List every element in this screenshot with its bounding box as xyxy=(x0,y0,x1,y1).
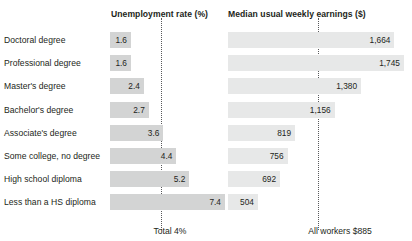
bar-value-median-weekly-earnings: 1,664 xyxy=(370,35,395,45)
column-header-unemployment-rate: Unemployment rate (%) xyxy=(111,9,208,19)
row-label: Master's degree xyxy=(4,81,66,91)
row-label: Less than a HS diploma xyxy=(4,197,96,207)
bar-value-median-weekly-earnings: 1,156 xyxy=(310,105,335,115)
bar-unemployment-rate: 1.6 xyxy=(110,55,131,71)
footer-total-unemployment: Total 4% xyxy=(154,226,187,236)
bar-median-weekly-earnings: 1,380 xyxy=(228,78,361,94)
bar-unemployment-rate: 5.2 xyxy=(110,171,189,187)
bar-value-unemployment-rate: 2.7 xyxy=(133,105,149,115)
bar-value-unemployment-rate: 1.6 xyxy=(115,58,131,68)
row-label: High school diploma xyxy=(4,174,82,184)
bar-value-unemployment-rate: 5.2 xyxy=(174,174,190,184)
bar-unemployment-rate: 2.4 xyxy=(110,78,144,94)
chart-row: Some college, no degree4.4756 xyxy=(0,148,412,164)
education-unemployment-earnings-chart: Unemployment rate (%) Median usual weekl… xyxy=(0,0,412,241)
bar-value-median-weekly-earnings: 1,380 xyxy=(336,81,361,91)
chart-row: Less than a HS diploma7.4504 xyxy=(0,194,412,210)
bar-value-median-weekly-earnings: 1,745 xyxy=(379,58,404,68)
row-label: Bachelor's degree xyxy=(4,105,73,115)
bar-value-unemployment-rate: 1.6 xyxy=(115,35,131,45)
bar-value-unemployment-rate: 4.4 xyxy=(161,151,177,161)
bar-value-median-weekly-earnings: 692 xyxy=(262,174,280,184)
row-label: Some college, no degree xyxy=(4,151,100,161)
bar-value-median-weekly-earnings: 756 xyxy=(270,151,288,161)
footer-total-earnings: All workers $885 xyxy=(308,226,372,236)
bar-median-weekly-earnings: 692 xyxy=(228,171,280,187)
bar-unemployment-rate: 7.4 xyxy=(110,194,225,210)
chart-row: Doctoral degree1.61,664 xyxy=(0,32,412,48)
chart-row: Associate's degree3.6819 xyxy=(0,125,412,141)
bar-median-weekly-earnings: 1,664 xyxy=(228,32,394,48)
row-label: Associate's degree xyxy=(4,128,77,138)
chart-row: Professional degree1.61,745 xyxy=(0,55,412,71)
row-label: Professional degree xyxy=(4,58,81,68)
bar-unemployment-rate: 1.6 xyxy=(110,32,131,48)
chart-row: High school diploma5.2692 xyxy=(0,171,412,187)
bar-value-unemployment-rate: 2.4 xyxy=(128,81,144,91)
bar-value-unemployment-rate: 3.6 xyxy=(148,128,164,138)
row-label: Doctoral degree xyxy=(4,35,65,45)
bar-unemployment-rate: 4.4 xyxy=(110,148,176,164)
bar-median-weekly-earnings: 756 xyxy=(228,148,288,164)
chart-row: Bachelor's degree2.71,156 xyxy=(0,102,412,118)
bar-value-unemployment-rate: 7.4 xyxy=(209,197,225,207)
bar-value-median-weekly-earnings: 504 xyxy=(240,197,258,207)
bar-median-weekly-earnings: 1,156 xyxy=(228,102,335,118)
chart-row: Master's degree2.41,380 xyxy=(0,78,412,94)
bar-median-weekly-earnings: 504 xyxy=(228,194,258,210)
bar-median-weekly-earnings: 819 xyxy=(228,125,295,141)
bar-value-median-weekly-earnings: 819 xyxy=(277,128,295,138)
column-header-median-weekly-earnings: Median usual weekly earnings ($) xyxy=(228,9,366,19)
bar-unemployment-rate: 2.7 xyxy=(110,102,149,118)
bar-unemployment-rate: 3.6 xyxy=(110,125,163,141)
bar-median-weekly-earnings: 1,745 xyxy=(228,55,404,71)
